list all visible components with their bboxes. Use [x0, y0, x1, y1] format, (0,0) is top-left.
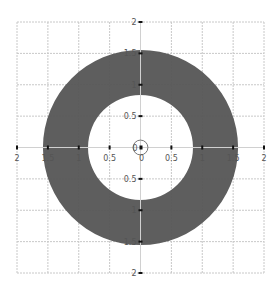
origin-dot — [140, 146, 143, 150]
y-tick-label: 1 — [131, 206, 136, 215]
x-tick-mark — [201, 146, 203, 150]
x-tick-mark — [109, 146, 111, 150]
x-tick-label: 2 — [14, 154, 19, 163]
x-tick-mark — [78, 146, 80, 150]
y-tick-label: 2 — [131, 18, 136, 27]
y-tick-mark — [139, 272, 143, 274]
y-tick-label: 1.5 — [124, 238, 137, 247]
x-tick-mark — [47, 146, 49, 150]
x-tick-label: 0.5 — [103, 154, 116, 163]
y-tick-mark — [139, 115, 143, 117]
x-tick-mark — [232, 146, 234, 150]
y-tick-mark — [139, 84, 143, 86]
y-tick-label: 1 — [131, 81, 136, 90]
x-tick-mark — [170, 146, 172, 150]
x-tick-label: 0.5 — [165, 154, 178, 163]
x-tick-label: 1.5 — [42, 154, 55, 163]
y-tick-label: 2 — [131, 269, 136, 278]
x-tick-mark — [263, 146, 265, 150]
x-tick-label: 2 — [261, 154, 266, 163]
y-tick-mark — [139, 21, 143, 23]
y-tick-mark — [139, 209, 143, 211]
y-tick-mark — [139, 52, 143, 54]
polar-annulus-chart: 21.510.50.511.52 21.510.50.511.52 00 — [0, 0, 280, 296]
x-tick-mark — [16, 146, 18, 150]
x-tick-label: 1 — [200, 154, 205, 163]
y-tick-label: 0.5 — [124, 175, 137, 184]
y-tick-label: 1.5 — [124, 49, 137, 58]
y-tick-mark — [139, 241, 143, 243]
origin-y-label: 0 — [132, 144, 137, 153]
x-tick-label: 1 — [76, 154, 81, 163]
origin-x-label: 0 — [139, 154, 144, 163]
y-tick-label: 0.5 — [124, 112, 137, 121]
y-tick-mark — [139, 178, 143, 180]
x-tick-label: 1.5 — [227, 154, 240, 163]
